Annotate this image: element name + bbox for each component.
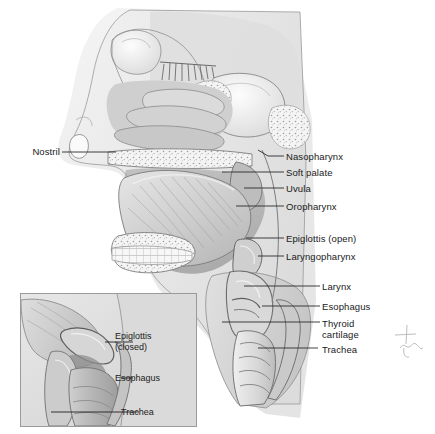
label-nostril: Nostril — [14, 146, 60, 157]
inset-label-epiglottis-line1: Epiglottis — [115, 331, 152, 342]
artist-signature — [392, 322, 432, 362]
label-nasopharynx: Nasopharynx — [286, 151, 343, 162]
label-oropharynx: Oropharynx — [286, 201, 337, 212]
inset-panel-epiglottis-closed: Epiglottis (closed) Esophagus Trachea — [20, 293, 197, 427]
figure-canvas: Nostril Nasopharynx Soft palate Uvula Or… — [0, 0, 435, 434]
inset-label-epiglottis-line2: (closed) — [115, 342, 147, 353]
label-soft-palate: Soft palate — [286, 167, 333, 178]
label-larynx: Larynx — [322, 281, 351, 292]
inset-label-esophagus: Esophagus — [115, 373, 160, 384]
inset-label-trachea: Trachea — [121, 407, 154, 418]
label-laryngopharynx: Laryngopharynx — [286, 251, 356, 262]
label-esophagus: Esophagus — [322, 301, 370, 312]
inset-larynx-illustration — [21, 294, 196, 426]
label-trachea: Trachea — [322, 344, 357, 355]
label-thyroid-cartilage-line2: cartilage — [322, 329, 359, 340]
label-thyroid-cartilage-line1: Thyroid — [322, 318, 354, 329]
label-epiglottis-open: Epiglottis (open) — [286, 233, 356, 244]
label-uvula: Uvula — [286, 183, 311, 194]
